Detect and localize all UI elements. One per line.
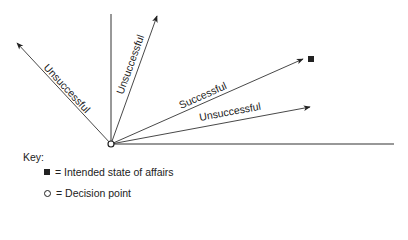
key-title: Key:	[23, 151, 44, 163]
filled-square-icon	[44, 169, 50, 175]
label-arrow-left: Unsuccessful	[42, 61, 93, 115]
key-item-text: = Intended state of affairs	[55, 166, 174, 178]
label-arrow-upper: Unsuccessful	[114, 33, 147, 96]
arrow-successful	[111, 59, 303, 144]
decision-point-circle-icon	[108, 141, 114, 147]
key-item-text: = Decision point	[56, 187, 131, 199]
key-item-intended-state: = Intended state of affairs	[44, 166, 174, 178]
open-circle-icon	[44, 190, 51, 197]
label-arrow-lower: Unsuccessful	[198, 100, 262, 123]
key-item-decision-point: = Decision point	[44, 187, 131, 199]
arrow-left-unsuccessful	[17, 43, 111, 144]
intended-state-square-icon	[308, 56, 314, 62]
